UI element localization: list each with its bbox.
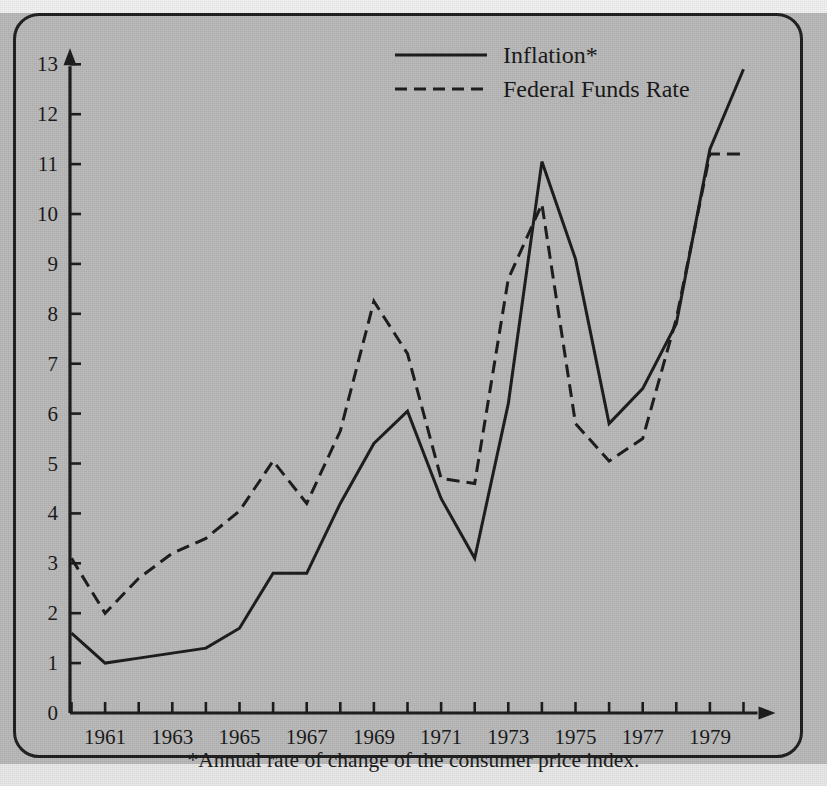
y-axis-label-4: 4: [24, 503, 58, 524]
y-axis-label-6: 6: [24, 404, 58, 425]
data-series: [72, 69, 744, 663]
x-axis-label-1967: 1967: [286, 727, 328, 748]
y-axis-label-5: 5: [24, 454, 58, 475]
y-axis-label-10: 10: [24, 204, 58, 225]
y-axis-label-11: 11: [24, 154, 58, 175]
x-axis-label-1969: 1969: [353, 727, 395, 748]
y-axis-label-12: 12: [24, 104, 58, 125]
legend-swatches: [395, 55, 487, 89]
x-axis-label-1975: 1975: [555, 727, 597, 748]
y-axis-label-8: 8: [24, 304, 58, 325]
y-axis-label-9: 9: [24, 254, 58, 275]
x-axis-label-1973: 1973: [487, 727, 529, 748]
x-axis-label-1977: 1977: [622, 727, 664, 748]
axes: [64, 48, 776, 719]
y-axis-label-7: 7: [24, 354, 58, 375]
y-axis-label-13: 13: [24, 54, 58, 75]
y-axis-label-3: 3: [24, 553, 58, 574]
chart-footnote: *Annual rate of change of the consumer p…: [0, 748, 827, 773]
x-axis-label-1965: 1965: [219, 727, 261, 748]
legend-label-1: Federal Funds Rate: [503, 77, 690, 101]
series-line-0: [72, 69, 744, 663]
x-axis-label-1979: 1979: [689, 727, 731, 748]
y-axis-label-1: 1: [24, 653, 58, 674]
chart-figure: 012345678910111213 196119631965196719691…: [0, 0, 827, 786]
plot-area: [0, 0, 827, 786]
x-axis-label-1963: 1963: [151, 727, 193, 748]
y-axis-label-2: 2: [24, 603, 58, 624]
series-line-1: [72, 154, 744, 613]
legend-label-0: Inflation*: [503, 43, 598, 67]
x-axis-arrowhead: [759, 707, 776, 720]
y-axis-label-0: 0: [24, 703, 58, 724]
y-axis-arrowhead: [64, 48, 77, 65]
x-axis-label-1961: 1961: [84, 727, 126, 748]
x-axis-label-1971: 1971: [420, 727, 462, 748]
